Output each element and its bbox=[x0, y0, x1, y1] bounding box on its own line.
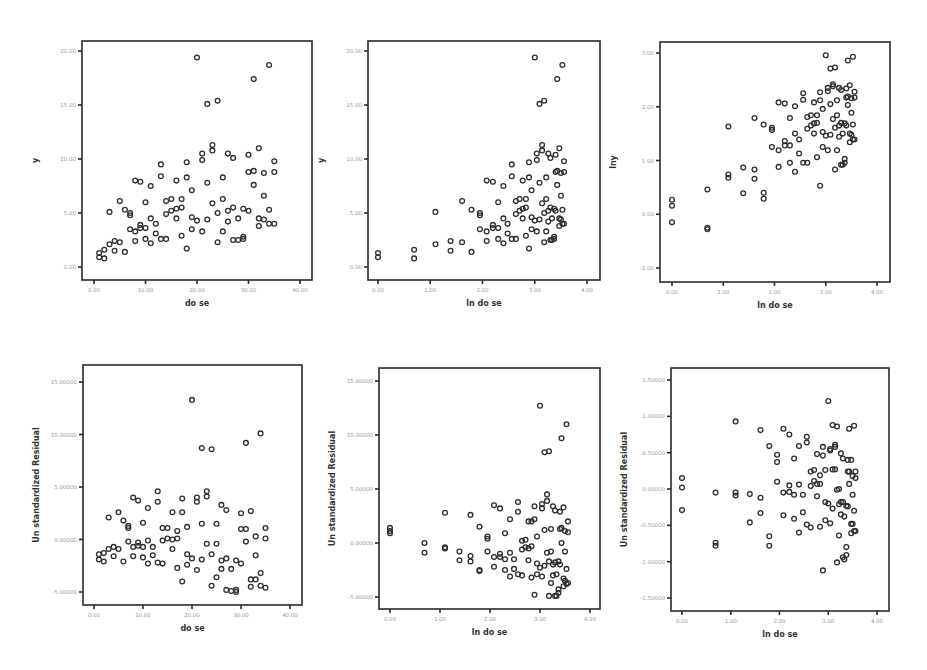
y-axis-label: Un standardized Residual bbox=[620, 432, 629, 548]
data-point-marker bbox=[263, 536, 268, 541]
data-point-marker bbox=[544, 229, 549, 234]
data-point-marker bbox=[219, 503, 224, 508]
data-point-marker bbox=[821, 453, 826, 458]
data-point-marker bbox=[205, 180, 210, 185]
data-point-marker bbox=[422, 550, 427, 555]
data-point-marker bbox=[828, 102, 833, 107]
data-point-marker bbox=[484, 178, 489, 183]
data-point-marker bbox=[555, 77, 560, 82]
data-point-marker bbox=[825, 148, 830, 153]
data-point-marker bbox=[131, 495, 136, 500]
data-point-marker bbox=[209, 447, 214, 452]
data-point-marker bbox=[501, 216, 506, 221]
data-point-marker bbox=[244, 539, 249, 544]
data-point-marker bbox=[214, 521, 219, 526]
data-point-marker bbox=[107, 242, 112, 247]
data-point-marker bbox=[781, 513, 786, 518]
data-point-marker bbox=[542, 528, 547, 533]
x-tick-label: 1.00 bbox=[717, 289, 730, 295]
data-point-marker bbox=[562, 170, 567, 175]
data-point-marker bbox=[823, 468, 828, 473]
data-point-marker bbox=[559, 436, 564, 441]
data-point-marker bbox=[808, 484, 813, 489]
data-point-marker bbox=[457, 549, 462, 554]
data-point-marker bbox=[175, 529, 180, 534]
data-point-marker bbox=[520, 216, 525, 221]
data-point-marker bbox=[448, 239, 453, 244]
data-point-marker bbox=[133, 229, 138, 234]
data-point-marker bbox=[733, 419, 738, 424]
x-axis-label: do se bbox=[185, 299, 210, 308]
data-point-marker bbox=[775, 452, 780, 457]
data-point-marker bbox=[538, 403, 543, 408]
data-point-marker bbox=[833, 167, 838, 172]
data-point-marker bbox=[797, 137, 802, 142]
data-point-marker bbox=[492, 555, 497, 560]
data-point-marker bbox=[549, 527, 554, 532]
data-point-marker bbox=[155, 499, 160, 504]
data-point-marker bbox=[215, 240, 220, 245]
data-point-marker bbox=[788, 143, 793, 148]
data-point-marker bbox=[205, 102, 210, 107]
data-point-marker bbox=[141, 545, 146, 550]
data-point-marker bbox=[503, 531, 508, 536]
data-point-marker bbox=[553, 152, 558, 157]
data-point-marker bbox=[812, 131, 817, 136]
data-point-marker bbox=[492, 503, 497, 508]
data-point-marker bbox=[468, 559, 473, 564]
data-point-marker bbox=[797, 444, 802, 449]
data-point-marker bbox=[148, 216, 153, 221]
data-point-marker bbox=[563, 549, 568, 554]
data-point-marker bbox=[164, 237, 169, 242]
data-point-marker bbox=[189, 188, 194, 193]
data-point-marker bbox=[136, 498, 141, 503]
data-point-marker bbox=[146, 538, 151, 543]
y-tick-label: 5.00000 bbox=[350, 486, 373, 492]
data-point-marker bbox=[776, 100, 781, 105]
data-point-marker bbox=[752, 176, 757, 181]
data-point-marker bbox=[797, 482, 802, 487]
data-point-marker bbox=[272, 221, 277, 226]
data-point-marker bbox=[818, 524, 823, 529]
data-point-marker bbox=[527, 246, 532, 251]
data-point-marker bbox=[566, 530, 571, 535]
data-point-marker bbox=[542, 98, 547, 103]
data-point-marker bbox=[560, 207, 565, 212]
data-point-marker bbox=[141, 555, 146, 560]
data-point-marker bbox=[220, 229, 225, 234]
data-point-marker bbox=[229, 589, 234, 594]
data-point-marker bbox=[787, 490, 792, 495]
data-point-marker bbox=[775, 460, 780, 465]
data-point-marker bbox=[469, 250, 474, 255]
data-point-marker bbox=[262, 171, 267, 176]
x-tick-label: 4.00 bbox=[871, 289, 884, 295]
data-point-marker bbox=[555, 183, 560, 188]
data-point-marker bbox=[174, 216, 179, 221]
data-point-marker bbox=[231, 205, 236, 210]
y-tick-label: 0.00000 bbox=[350, 540, 373, 546]
data-point-marker bbox=[508, 574, 513, 579]
data-point-marker bbox=[527, 160, 532, 165]
scatterplot-matrix: 0.0010.0020.0030.0040.000.005.0010.0015.… bbox=[0, 0, 927, 670]
data-point-marker bbox=[849, 110, 854, 115]
data-point-marker bbox=[820, 145, 825, 150]
data-point-marker bbox=[830, 506, 835, 511]
data-point-marker bbox=[226, 219, 231, 224]
data-point-marker bbox=[234, 558, 239, 563]
x-axis-label: ln do se bbox=[762, 630, 798, 639]
data-point-marker bbox=[241, 206, 246, 211]
data-point-marker bbox=[248, 509, 253, 514]
data-point-marker bbox=[826, 399, 831, 404]
data-point-marker bbox=[460, 240, 465, 245]
data-point-marker bbox=[747, 520, 752, 525]
data-point-marker bbox=[527, 175, 532, 180]
data-point-marker bbox=[559, 193, 564, 198]
x-tick-label: 0.00 bbox=[88, 612, 101, 618]
data-point-marker bbox=[214, 541, 219, 546]
data-point-marker bbox=[741, 191, 746, 196]
data-point-marker bbox=[761, 122, 766, 127]
data-point-marker bbox=[550, 216, 555, 221]
x-tick-label: 2.00 bbox=[484, 616, 497, 622]
data-point-marker bbox=[845, 103, 850, 108]
plot-frame bbox=[82, 41, 312, 280]
